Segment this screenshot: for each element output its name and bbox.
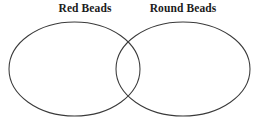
venn-diagram-canvas: Red Beads Round Beads: [0, 0, 260, 128]
venn-circles-group: [0, 0, 260, 128]
set-ellipse-left: [9, 22, 140, 116]
set-ellipse-right: [116, 22, 250, 116]
